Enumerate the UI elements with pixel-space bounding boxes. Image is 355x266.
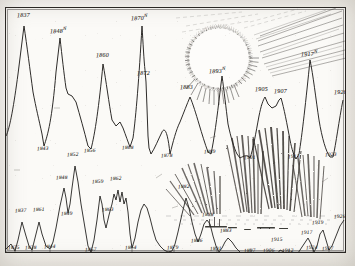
label-low-max-1917: 1917 <box>301 229 313 235</box>
label-max-1883: 1883 <box>180 84 193 90</box>
label-low-min-1857: 1857 <box>85 246 97 252</box>
label-min-1878: 1878 <box>161 152 173 158</box>
label-low-max-1848: 1848 <box>56 174 68 180</box>
label-max-1860: 1860 <box>96 52 109 58</box>
label-low-max-1837: 1837 <box>15 207 27 213</box>
sun-disc <box>189 28 248 87</box>
sunspot-cycle-plate: 1837 1848N 1860 1870N 1872 1883 1893N 19… <box>0 0 355 266</box>
label-min-1923: 1923 <box>325 151 337 157</box>
engraving-canvas <box>6 8 345 252</box>
label-low-min-1927: 1927 <box>322 245 334 251</box>
label-low-max-1852: 1852 <box>67 151 79 157</box>
label-low-max-1888: 1888 <box>202 211 214 217</box>
label-min-1901: 1901 <box>244 154 256 160</box>
label-max-1848n: 1848N <box>50 25 67 34</box>
label-max-1905: 1905 <box>255 86 268 92</box>
stray-marks <box>14 108 328 208</box>
label-max-1893n: 1893N <box>209 65 226 74</box>
label-low-max-1882: 1882 <box>178 183 190 189</box>
label-max-1917n: 1917N <box>301 48 318 57</box>
label-low-max-1919: 1919 <box>312 219 324 225</box>
label-low-max-1926: 1926 <box>334 213 346 219</box>
upper-curve-sunspot-cycles <box>6 26 343 159</box>
label-low-min-1863: 1863 <box>102 206 114 212</box>
label-low-max-1862: 1862 <box>110 175 122 181</box>
label-low-min-1891: 1891 <box>210 245 222 251</box>
curves-svg <box>6 8 346 253</box>
label-min-1856: 1856 <box>84 147 96 153</box>
label-low-min-1879: 1879 <box>167 244 179 250</box>
label-min-1868: 1868 <box>122 144 134 150</box>
label-low-min-1897: 1897 <box>244 247 256 253</box>
label-min-1889: 1889 <box>204 148 216 154</box>
label-low-max-1861: 1861 <box>33 206 45 212</box>
ground-silhouette <box>205 217 289 230</box>
label-low-max-1859: 1859 <box>92 178 104 184</box>
label-low-min-1915: 1915 <box>271 236 283 242</box>
label-min-1843: 1843 <box>37 145 49 151</box>
label-low-min-1906: 1906 <box>263 247 275 253</box>
label-max-1872: 1872 <box>137 70 150 76</box>
label-low-min-1912: 1912 <box>282 247 294 253</box>
label-low-min-1924: 1924 <box>306 244 318 250</box>
label-low-min-1844: 1844 <box>44 243 56 249</box>
label-max-1870n: 1870N <box>131 12 148 21</box>
label-min-1913: 1913 <box>288 153 300 159</box>
label-low-min-1838: 1838 <box>25 244 37 250</box>
label-max-1837: 1837 <box>17 12 30 18</box>
label-max-1907: 1907 <box>274 88 287 94</box>
label-low-min-1886: 1886 <box>191 237 203 243</box>
engraved-plate-frame: 1837 1848N 1860 1870N 1872 1883 1893N 19… <box>5 7 346 253</box>
label-max-1926: 1926 <box>334 89 346 95</box>
label-low-min-1864: 1864 <box>125 244 137 250</box>
label-low-min-1835: 1835 <box>8 244 20 250</box>
label-low-min-1849: 1849 <box>61 210 73 216</box>
label-low-max-1883: 1883 <box>220 227 232 233</box>
